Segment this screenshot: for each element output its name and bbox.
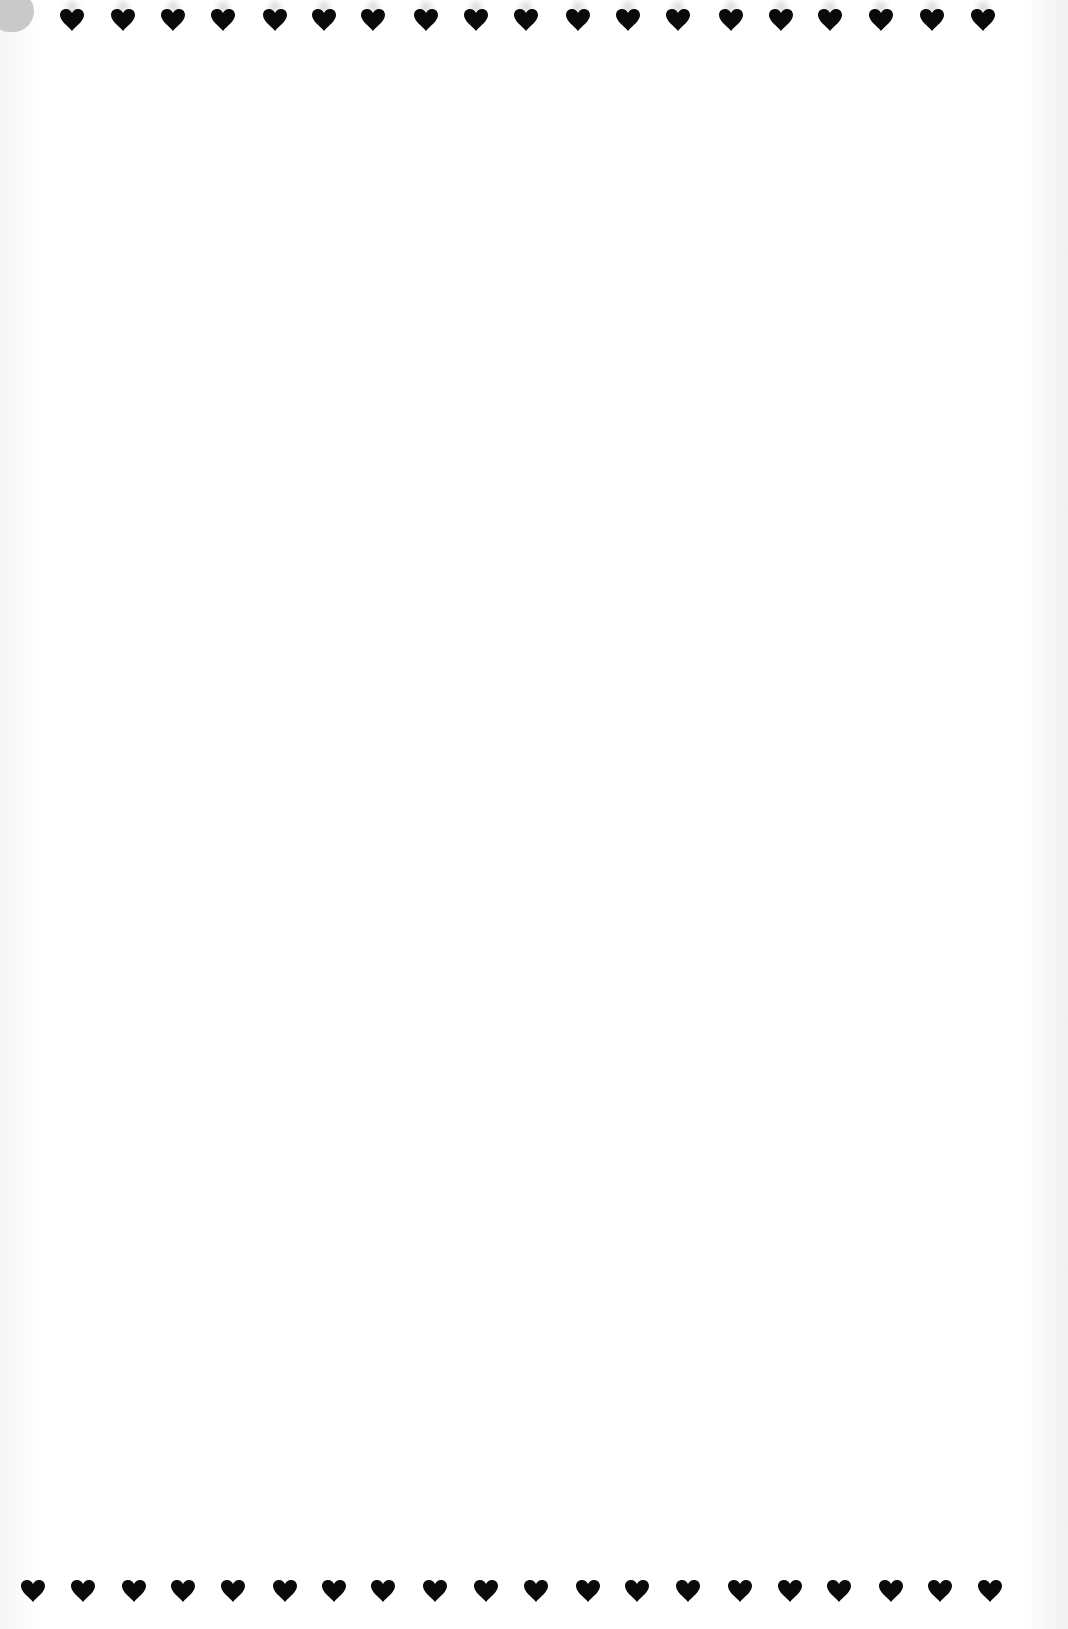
heart-icon (718, 8, 744, 32)
heart-icon (422, 1579, 448, 1603)
heart-icon (727, 1579, 753, 1603)
heart-icon (360, 8, 386, 32)
heart-icon (919, 8, 945, 32)
heart-icon (262, 8, 288, 32)
heart-icon (624, 1579, 650, 1603)
heart-icon (20, 1579, 46, 1603)
heart-icon (777, 1579, 803, 1603)
heart-icon (110, 8, 136, 32)
heart-icon (272, 1579, 298, 1603)
heart-icon (220, 1579, 246, 1603)
heart-icon (878, 1579, 904, 1603)
heart-icon (868, 8, 894, 32)
heart-icon (160, 8, 186, 32)
heart-icon (463, 8, 489, 32)
heart-icon (170, 1579, 196, 1603)
heart-icon (826, 1579, 852, 1603)
heart-icon (817, 8, 843, 32)
heart-icon (665, 8, 691, 32)
heart-icon (321, 1579, 347, 1603)
heart-icon (473, 1579, 499, 1603)
heart-icon (927, 1579, 953, 1603)
bottom-heart-border (0, 1568, 1068, 1608)
heart-icon (977, 1579, 1003, 1603)
top-heart-border (0, 0, 1068, 40)
heart-icon (970, 8, 996, 32)
heart-icon (523, 1579, 549, 1603)
heart-icon (70, 1579, 96, 1603)
paper-sheet (0, 0, 1068, 1629)
heart-icon (513, 8, 539, 32)
heart-icon (615, 8, 641, 32)
heart-icon (210, 8, 236, 32)
heart-icon (413, 8, 439, 32)
heart-icon (768, 8, 794, 32)
heart-icon (59, 8, 85, 32)
heart-icon (370, 1579, 396, 1603)
heart-icon (311, 8, 337, 32)
heart-icon (575, 1579, 601, 1603)
heart-icon (675, 1579, 701, 1603)
heart-icon (121, 1579, 147, 1603)
heart-icon (565, 8, 591, 32)
